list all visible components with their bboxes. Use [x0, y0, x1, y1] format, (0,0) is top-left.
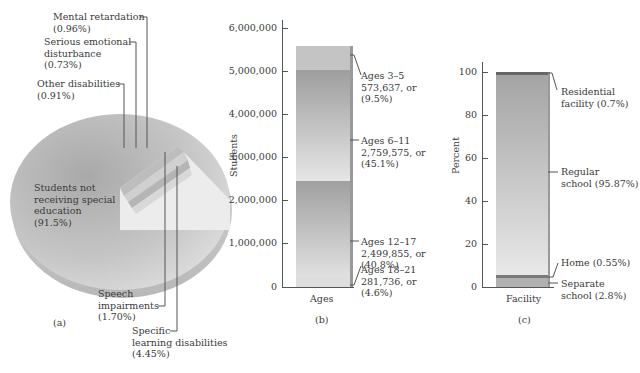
- x-axis-label-b: Ages: [310, 293, 333, 305]
- label-not-receiving: Students notreceiving specialeducation(9…: [34, 182, 115, 228]
- bar-home: [496, 275, 548, 278]
- y-tick: 3,000,000: [207, 151, 277, 162]
- y-tick: 6,000,000: [207, 22, 277, 33]
- label-regular-school: Regularschool (95.87%): [561, 166, 638, 189]
- label-serious-emotional: Serious emotionaldisturbance(0.73%): [44, 36, 131, 71]
- panel-label-a: (a): [53, 317, 66, 329]
- y-tick: 4,000,000: [207, 108, 277, 119]
- bar-ages-12-17: [296, 181, 350, 276]
- y-tick: 60: [407, 152, 477, 163]
- panel-label-b: (b): [315, 314, 329, 326]
- bar-ages-18-21: [296, 276, 350, 287]
- y-tick: 0: [207, 281, 277, 292]
- x-axis-label-c: Facility: [506, 293, 541, 305]
- y-tick: 80: [407, 109, 477, 120]
- y-tick: 2,000,000: [207, 194, 277, 205]
- bar-regular-school: [496, 75, 548, 275]
- y-tick: 100: [407, 66, 477, 77]
- bar-ages-6-11: [296, 70, 350, 181]
- panel-label-c: (c): [518, 314, 531, 326]
- y-axis-label-c: Percent: [450, 131, 461, 181]
- y-tick: 1,000,000: [207, 237, 277, 248]
- x-axis-c: [482, 287, 554, 288]
- label-mental-retardation: Mental retardation(0.96%): [53, 11, 145, 34]
- y-axis-b: [282, 20, 283, 288]
- y-tick: 0: [407, 281, 477, 292]
- y-axis-c: [482, 62, 483, 288]
- y-tick: 40: [407, 195, 477, 206]
- y-tick: 5,000,000: [207, 65, 277, 76]
- bar-separate-school: [496, 278, 548, 287]
- label-residential: Residentialfacility (0.7%): [561, 86, 628, 109]
- label-specific-learning: Specificlearning disabilities(4.45%): [132, 325, 227, 360]
- x-axis-b: [282, 287, 354, 288]
- y-axis-label-b: Students: [228, 131, 239, 181]
- label-other-disabilities: Other disabilities(0.91%): [37, 78, 120, 101]
- bar-residential: [496, 72, 548, 75]
- label-home: Home (0.55%): [561, 257, 630, 269]
- y-tick: 20: [407, 238, 477, 249]
- bar-ages-3-5: [296, 46, 350, 70]
- label-speech-impairments: Speechimpairments(1.70%): [98, 288, 159, 323]
- label-separate-school: Separateschool (2.8%): [561, 278, 626, 301]
